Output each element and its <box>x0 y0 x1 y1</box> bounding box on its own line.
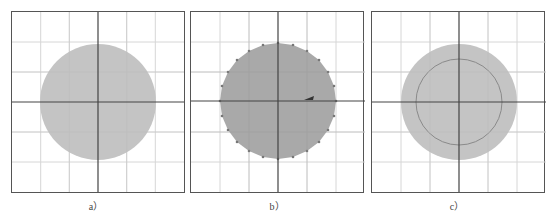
caption-c: c） <box>437 198 477 213</box>
panel-b <box>190 11 364 193</box>
caption-a: a） <box>76 198 116 213</box>
axes <box>372 12 546 192</box>
panel-a-canvas <box>12 12 184 192</box>
axes <box>12 12 184 192</box>
axes <box>191 12 365 192</box>
caption-b: b） <box>257 198 297 213</box>
panel-a <box>11 11 185 193</box>
panel-b-canvas <box>191 12 365 192</box>
panel-c-canvas <box>372 12 546 192</box>
panel-c <box>371 11 545 193</box>
